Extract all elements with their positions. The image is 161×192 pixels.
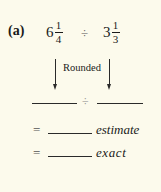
second-mixed-number: 3 1 3: [103, 20, 120, 45]
first-numerator: 1: [55, 20, 63, 31]
equals-sign: =: [33, 122, 40, 138]
rounded-label: Rounded: [63, 62, 101, 73]
second-whole: 3: [103, 25, 111, 40]
first-fraction: 1 4: [55, 20, 63, 45]
rounded-divisor-blank[interactable]: [97, 103, 143, 104]
second-numerator: 1: [112, 20, 120, 31]
first-whole: 6: [46, 25, 54, 40]
first-mixed-number: 6 1 4: [46, 20, 63, 45]
down-arrow-icon: [53, 84, 57, 90]
exact-label: exact: [96, 145, 126, 161]
estimate-blank[interactable]: [48, 133, 92, 134]
right-arrow-line: [109, 59, 110, 85]
down-arrow-icon: [107, 84, 111, 90]
division-operator: ÷: [81, 25, 88, 41]
left-arrow-line: [55, 59, 56, 85]
division-operator: ÷: [82, 94, 89, 109]
problem-label: (a): [8, 23, 24, 39]
exact-blank[interactable]: [48, 156, 92, 157]
second-fraction: 1 3: [112, 20, 120, 45]
second-denominator: 3: [112, 34, 120, 45]
rounded-dividend-blank[interactable]: [32, 103, 77, 104]
first-denominator: 4: [55, 34, 63, 45]
estimate-label: estimate: [96, 122, 139, 138]
equals-sign: =: [33, 145, 40, 161]
